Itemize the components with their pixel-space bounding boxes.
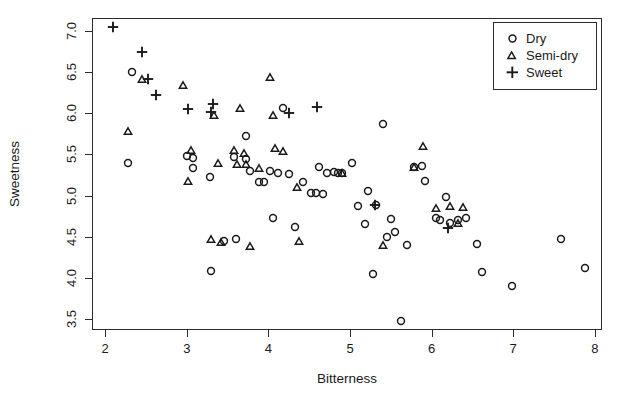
data-point-dry [274,168,283,177]
data-point-dry [396,317,405,326]
data-point-sweet [369,200,381,212]
y-axis-tick-label: 4.0 [63,269,78,287]
data-point-dry [241,131,250,140]
data-point-dry [128,68,137,77]
data-point-dry [378,120,387,129]
y-axis-tick-label: 6.0 [63,104,78,122]
x-axis-tick-label: 7 [510,341,517,356]
y-axis-tick-label: 7.0 [63,22,78,40]
x-axis-tick [268,329,269,337]
data-point-dry [472,239,481,248]
x-axis-tick-label: 4 [265,341,272,356]
legend-item-dry: Dry [503,30,588,47]
data-point-semi-dry [292,183,301,191]
x-axis-tick [513,329,514,337]
y-axis-tick [85,237,93,238]
data-point-dry [207,267,216,276]
y-axis-tick [85,196,93,197]
data-point-dry [441,193,450,202]
y-axis-tick-label: 5.0 [63,186,78,204]
scatter-plot-figure: Sweetness Bitterness 3.54.04.55.05.56.06… [0,0,630,407]
x-axis-tick-label: 5 [346,341,353,356]
data-point-dry [319,189,328,198]
data-point-sweet [108,21,120,33]
x-axis-tick [105,329,106,337]
data-point-semi-dry [254,164,263,172]
circle-icon [503,34,521,43]
data-point-dry [390,227,399,236]
y-axis-tick-label: 5.5 [63,145,78,163]
data-point-sweet [312,101,324,113]
data-point-dry [260,177,269,186]
data-point-sweet [136,46,148,58]
data-point-semi-dry [184,177,193,185]
data-point-dry [363,187,372,196]
data-point-sweet [142,73,154,85]
data-point-dry [368,270,377,279]
data-point-semi-dry [295,237,304,245]
data-point-semi-dry [207,235,216,243]
x-axis-title: Bitterness [317,371,377,386]
data-point-semi-dry [241,160,250,168]
data-point-semi-dry [239,149,248,157]
data-point-sweet [207,98,219,110]
y-axis-tick [85,113,93,114]
data-point-sweet [442,223,454,235]
y-axis-tick [85,72,93,73]
data-point-semi-dry [178,81,187,89]
data-point-semi-dry [378,241,387,249]
y-axis-tick-label: 6.5 [63,63,78,81]
data-point-semi-dry [230,146,239,154]
data-point-dry [461,213,470,222]
data-point-dry [581,263,590,272]
data-point-dry [556,235,565,244]
x-axis-tick [595,329,596,337]
data-point-dry [354,202,363,211]
y-axis-tick-label: 4.5 [63,228,78,246]
data-point-semi-dry [419,142,428,150]
x-axis-tick-label: 3 [183,341,190,356]
data-point-semi-dry [431,204,440,212]
data-point-sweet [150,90,162,102]
data-point-semi-dry [213,159,222,167]
x-axis-tick-label: 6 [428,341,435,356]
data-point-semi-dry [246,242,255,250]
data-point-semi-dry [453,219,462,227]
data-point-semi-dry [337,168,346,176]
data-point-dry [268,213,277,222]
data-point-semi-dry [409,163,418,171]
data-point-semi-dry [186,146,195,154]
y-axis-title: Sweetness [7,141,22,207]
data-point-sweet [183,104,195,116]
data-point-dry [478,267,487,276]
data-point-dry [231,235,240,244]
data-point-semi-dry [279,147,288,155]
data-point-dry [124,158,133,167]
data-point-semi-dry [458,203,467,211]
data-point-dry [189,153,198,162]
y-axis-tick [85,31,93,32]
data-point-semi-dry [445,202,454,210]
data-point-semi-dry [235,104,244,112]
legend-item-sweet: Sweet [503,64,588,81]
data-point-dry [507,281,516,290]
y-axis-tick [85,278,93,279]
data-point-dry [347,158,356,167]
x-axis-tick [432,329,433,337]
y-axis-tick [85,319,93,320]
data-point-semi-dry [217,237,226,245]
data-point-dry [417,161,426,170]
data-point-dry [403,240,412,249]
data-point-dry [421,176,430,185]
legend-item-label: Sweet [526,65,562,80]
y-axis-tick [85,154,93,155]
legend-item-label: Semi-dry [526,48,578,63]
data-point-dry [284,170,293,179]
x-axis-tick [187,329,188,337]
y-axis-tick-label: 3.5 [63,310,78,328]
data-point-dry [189,164,198,173]
data-point-dry [386,214,395,223]
triangle-icon [503,51,521,59]
legend-item-semi-dry: Semi-dry [503,47,588,64]
data-point-dry [360,220,369,229]
